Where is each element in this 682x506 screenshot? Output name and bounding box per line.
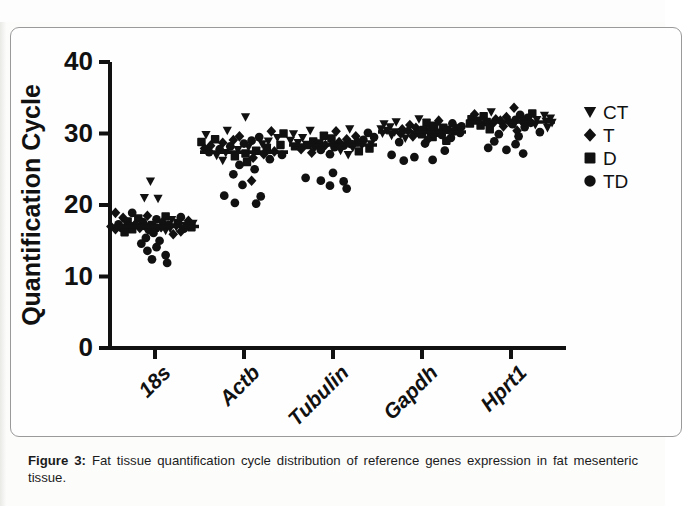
point-marker-circle-icon	[137, 239, 146, 248]
point-marker-square-icon	[120, 228, 128, 236]
point-marker-diamond-icon	[247, 175, 257, 186]
point-marker-circle-icon	[387, 151, 396, 160]
point-marker-circle-icon	[484, 143, 493, 152]
point-marker-circle-icon	[149, 229, 158, 238]
y-axis-tick-label: 30	[64, 118, 93, 148]
figure-caption-text: Fat tissue quantification cycle distribu…	[28, 453, 638, 485]
point-marker-diamond-icon	[509, 102, 519, 113]
x-axis-tick-label: Tubulin	[283, 361, 353, 431]
point-marker-triangle-down-icon	[336, 147, 345, 156]
legend-item-ct: CT	[584, 102, 629, 123]
point-marker-circle-icon	[255, 133, 264, 142]
circle-icon	[584, 175, 595, 186]
diamond-icon	[584, 128, 596, 142]
y-axis-tick-label: 40	[64, 46, 93, 76]
square-icon	[585, 153, 596, 164]
scatter-chart: 01020304018sActbTubulinGapdhHprt1Quantif…	[0, 0, 665, 440]
point-marker-circle-icon	[265, 155, 274, 164]
data-cluster-18s	[106, 177, 199, 267]
point-marker-circle-icon	[235, 161, 244, 170]
chart-axes: 01020304018sActbTubulinGapdhHprt1Quantif…	[17, 46, 566, 430]
point-marker-square-icon	[442, 136, 450, 144]
y-axis-tick-label: 10	[64, 261, 93, 291]
point-marker-circle-icon	[220, 191, 229, 200]
x-axis-tick-label: Gapdh	[379, 361, 442, 424]
point-marker-circle-icon	[342, 184, 351, 193]
point-marker-circle-icon	[440, 146, 449, 155]
chart-legend: CTTDTD	[584, 102, 629, 192]
point-marker-circle-icon	[536, 128, 545, 137]
triangle-down-icon	[584, 107, 596, 118]
point-marker-circle-icon	[250, 165, 259, 174]
point-marker-square-icon	[276, 141, 284, 149]
point-marker-triangle-down-icon	[487, 108, 496, 117]
point-marker-circle-icon	[511, 140, 520, 149]
point-marker-diamond-icon	[111, 208, 121, 219]
x-axis-tick-label: Actb	[214, 360, 264, 410]
point-marker-circle-icon	[428, 156, 437, 165]
point-marker-triangle-down-icon	[344, 151, 353, 160]
point-marker-triangle-down-icon	[223, 127, 232, 136]
legend-item-d: D	[585, 148, 617, 169]
legend-label: T	[603, 125, 615, 146]
point-marker-square-icon	[243, 158, 251, 166]
point-marker-circle-icon	[395, 138, 404, 147]
point-marker-circle-icon	[326, 150, 335, 159]
point-marker-circle-icon	[161, 251, 170, 260]
point-marker-circle-icon	[502, 146, 511, 155]
legend-label: TD	[603, 171, 628, 192]
point-marker-circle-icon	[143, 246, 152, 255]
point-marker-circle-icon	[301, 173, 310, 182]
chart-plot-area: 01020304018sActbTubulinGapdhHprt1Quantif…	[0, 0, 665, 440]
point-marker-circle-icon	[252, 199, 261, 208]
y-axis-tick-label: 20	[64, 189, 93, 219]
point-marker-circle-icon	[148, 255, 157, 264]
point-marker-circle-icon	[519, 149, 528, 158]
point-marker-circle-icon	[370, 133, 379, 142]
data-cluster-actb	[197, 113, 288, 208]
point-marker-circle-icon	[421, 139, 430, 148]
point-marker-triangle-down-icon	[414, 115, 423, 124]
data-cluster-hprt1	[466, 102, 557, 157]
legend-item-t: T	[584, 125, 615, 146]
point-marker-circle-icon	[229, 170, 238, 179]
point-marker-circle-icon	[490, 137, 499, 146]
point-marker-triangle-down-icon	[153, 195, 162, 204]
x-axis-tick-label: 18s	[134, 361, 175, 402]
point-marker-circle-icon	[326, 181, 335, 190]
legend-item-td: TD	[584, 171, 628, 192]
point-marker-circle-icon	[399, 156, 408, 165]
data-cluster-gapdh	[376, 115, 466, 165]
point-marker-circle-icon	[231, 198, 240, 207]
point-marker-triangle-down-icon	[218, 157, 227, 166]
point-marker-square-icon	[485, 125, 493, 133]
point-marker-circle-icon	[316, 146, 325, 155]
y-axis-tick-label: 0	[79, 332, 93, 362]
point-marker-square-icon	[320, 131, 328, 139]
point-marker-triangle-down-icon	[140, 194, 149, 203]
point-marker-circle-icon	[514, 132, 523, 141]
x-axis-tick-label: Hprt1	[476, 361, 531, 416]
y-axis-title: Quantification Cycle	[17, 84, 45, 326]
point-marker-circle-icon	[329, 168, 338, 177]
point-marker-circle-icon	[163, 259, 172, 268]
point-marker-triangle-down-icon	[345, 125, 354, 134]
point-marker-circle-icon	[520, 123, 529, 132]
point-marker-triangle-down-icon	[543, 124, 552, 133]
point-marker-circle-icon	[238, 181, 247, 190]
point-marker-square-icon	[355, 147, 363, 155]
point-marker-triangle-down-icon	[241, 113, 250, 122]
figure-caption: Figure 3: Fat tissue quantification cycl…	[28, 452, 638, 486]
point-marker-triangle-down-icon	[146, 177, 155, 186]
point-marker-circle-icon	[316, 176, 325, 185]
legend-label: CT	[603, 102, 629, 123]
figure-caption-label: Figure 3:	[28, 453, 86, 468]
point-marker-circle-icon	[410, 153, 419, 162]
data-cluster-tubulin	[286, 125, 379, 193]
point-marker-circle-icon	[152, 243, 161, 252]
legend-label: D	[603, 148, 617, 169]
